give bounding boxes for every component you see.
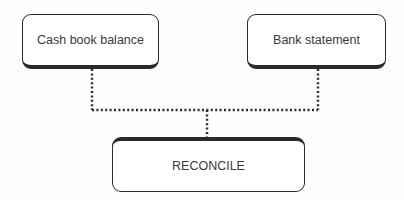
reconcile-label: RECONCILE xyxy=(172,159,245,173)
bank-statement-label: Bank statement xyxy=(273,33,360,47)
cash-book-balance-label: Cash book balance xyxy=(37,33,144,47)
reconcile-node: RECONCILE xyxy=(112,137,305,192)
cash-book-balance-node: Cash book balance xyxy=(22,14,159,69)
bank-statement-node: Bank statement xyxy=(247,14,386,69)
